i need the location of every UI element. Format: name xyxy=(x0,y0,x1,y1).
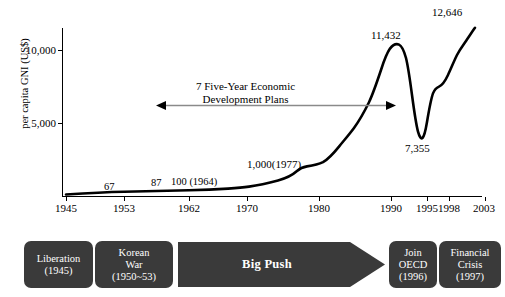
oecd-label-1: Join xyxy=(399,247,428,259)
annotation-line-2: Development Plans xyxy=(196,93,295,106)
timeline-financial-crisis[interactable]: Financial Crisis (1997) xyxy=(439,241,501,288)
liberation-label: Liberation xyxy=(37,253,81,265)
korean-war-year: (1950~53) xyxy=(112,271,156,283)
five-year-plans-annotation: 7 Five-Year Economic Development Plans xyxy=(196,80,295,105)
oecd-year: (1996) xyxy=(399,271,428,283)
korean-war-label-1: Korean xyxy=(112,247,156,259)
korean-war-label-2: War xyxy=(112,259,156,271)
timeline-korean-war[interactable]: Korean War (1950~53) xyxy=(95,241,173,288)
liberation-year: (1945) xyxy=(37,265,81,277)
crisis-label-1: Financial xyxy=(450,247,489,259)
timeline-liberation[interactable]: Liberation (1945) xyxy=(24,241,93,288)
annotation-line-1: 7 Five-Year Economic xyxy=(196,80,295,93)
timeline-join-oecd[interactable]: Join OECD (1996) xyxy=(389,241,437,288)
big-push-label: Big Push xyxy=(178,241,356,288)
crisis-label-2: Crisis xyxy=(450,259,489,271)
timeline-big-push[interactable]: Big Push xyxy=(178,241,385,288)
crisis-year: (1997) xyxy=(450,271,489,283)
oecd-label-2: OECD xyxy=(399,259,428,271)
